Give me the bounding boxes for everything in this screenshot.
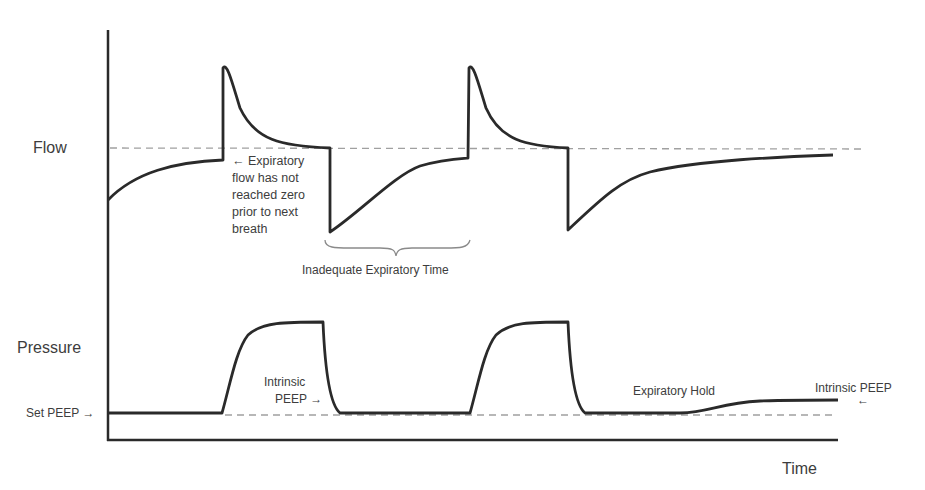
intrinsic-peep-arrow-icon: ← — [857, 393, 869, 407]
waveform-diagram — [0, 0, 925, 490]
intrinsic-peep-label-2: Intrinsic PEEP — [815, 381, 892, 395]
pressure-label: Pressure — [17, 339, 81, 357]
flow-label: Flow — [33, 139, 67, 157]
intrinsic-peep-label-1-line2: PEEP → — [275, 392, 322, 406]
time-label: Time — [782, 460, 817, 478]
flow-note-line4: prior to next — [232, 204, 305, 221]
set-peep-label: Set PEEP → — [26, 406, 94, 420]
flow-note-line2: flow has not — [232, 170, 305, 187]
inadequate-time-brace — [325, 240, 470, 256]
pressure-trace — [108, 322, 838, 413]
flow-note-line3: reached zero — [232, 187, 305, 204]
expiratory-hold-label: Expiratory Hold — [633, 384, 715, 398]
inadequate-expiratory-time-label: Inadequate Expiratory Time — [302, 263, 449, 277]
intrinsic-peep-label-1-line1: Intrinsic — [264, 375, 305, 389]
flow-note: ← Expiratory flow has not reached zero p… — [232, 153, 305, 238]
flow-note-line5: breath — [232, 221, 305, 238]
flow-note-line1: ← Expiratory — [232, 153, 305, 170]
